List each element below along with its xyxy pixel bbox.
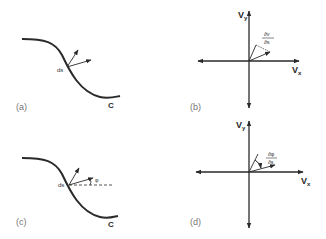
- ds-label: ds: [58, 182, 64, 188]
- panel-label-d: (d): [190, 217, 201, 227]
- panel-label-c: (c): [16, 217, 27, 227]
- ds-denominator: ∂s: [264, 39, 270, 45]
- vx-label: Vx: [292, 65, 302, 76]
- vy-label: Vy: [238, 10, 248, 21]
- dv-ds-difference: [256, 45, 270, 52]
- panel-c: φ ds C (c): [16, 158, 118, 229]
- curve-c-label: C: [108, 101, 114, 110]
- vy-label: Vy: [236, 120, 246, 131]
- curve-c-label: C: [108, 220, 114, 229]
- panel-b: Vy Vx ∂v ∂s (b): [190, 10, 302, 112]
- panel-a: ds C (a): [16, 39, 120, 112]
- vector-2: [249, 165, 275, 172]
- ds-label: ds: [57, 67, 63, 73]
- panel-label-a: (a): [16, 102, 27, 112]
- angle-arc: [255, 160, 261, 168]
- panel-label-b: (b): [190, 102, 201, 112]
- ds-denominator: ∂s: [268, 159, 274, 165]
- figure-canvas: ds C (a) Vy Vx ∂v ∂s (b) φ ds C (c): [0, 0, 326, 239]
- phi-label: φ: [95, 177, 99, 183]
- vector-1: [249, 154, 258, 172]
- curve-c: [22, 39, 120, 98]
- dv-numerator: ∂v: [264, 31, 270, 37]
- vx-label: Vx: [301, 176, 311, 187]
- dphi-numerator: ∂φ: [268, 151, 275, 157]
- curve-c: [22, 158, 118, 218]
- panel-d: Vy Vx ∂φ ∂s (d): [190, 120, 311, 228]
- angle-arc: [90, 179, 91, 185]
